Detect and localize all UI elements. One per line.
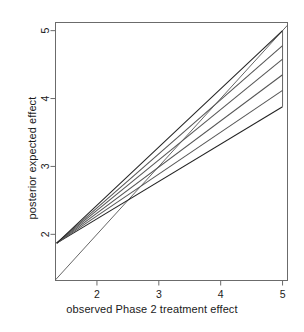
series-identity-line	[56, 25, 288, 280]
y-tick-label: 4	[40, 95, 52, 101]
y-axis-tick-labels: 2345	[40, 28, 52, 238]
x-axis-title: observed Phase 2 treatment effect	[0, 303, 304, 315]
plot-area: 2345 2345	[0, 0, 304, 332]
x-tick-label: 4	[218, 288, 224, 300]
series-shrinkage-line-1	[57, 107, 283, 243]
x-axis-ticks	[97, 281, 283, 286]
series-shrinkage-line-2	[57, 90, 283, 243]
series-shrinkage-line-5	[57, 46, 283, 244]
series-shrinkage-line-3	[57, 75, 283, 243]
x-tick-label: 3	[156, 288, 162, 300]
chart-figure: 2345 2345 observed Phase 2 treatment eff…	[0, 0, 304, 332]
y-axis-ticks	[51, 31, 56, 235]
x-tick-label: 5	[280, 288, 286, 300]
series-shrinkage-line-6	[57, 31, 283, 244]
y-tick-label: 5	[40, 28, 52, 34]
x-axis-tick-labels: 2345	[94, 288, 286, 300]
series-shrinkage-line-4	[57, 59, 283, 243]
x-tick-label: 2	[94, 288, 100, 300]
y-tick-label: 3	[40, 163, 52, 169]
y-tick-label: 2	[40, 231, 52, 237]
chart-series-group	[56, 25, 288, 280]
y-axis-title: posterior expected effect	[26, 48, 38, 268]
